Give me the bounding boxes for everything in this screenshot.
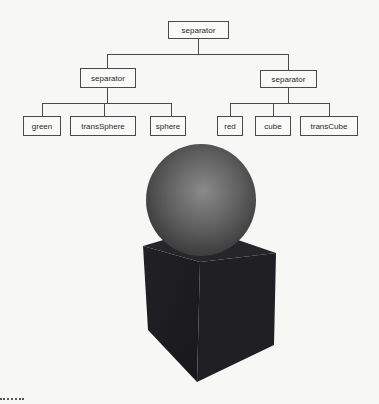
- node-root-separator: separator: [168, 21, 229, 39]
- cube-shape: [143, 238, 276, 382]
- connector: [329, 103, 330, 116]
- node-sphere: sphere: [150, 116, 186, 136]
- connector: [42, 103, 43, 116]
- connector: [230, 103, 231, 116]
- rendered-scene: [0, 140, 379, 404]
- connector: [288, 54, 289, 70]
- connector: [198, 39, 199, 54]
- cube-left-face: [143, 246, 200, 382]
- cube-right-face: [197, 253, 276, 382]
- node-left-separator: separator: [80, 68, 136, 88]
- connector: [230, 103, 330, 104]
- connector: [171, 103, 172, 116]
- node-transsphere: transSphere: [70, 116, 136, 136]
- sphere-shape: [146, 144, 256, 256]
- connector: [273, 103, 274, 116]
- node-cube: cube: [255, 116, 291, 136]
- connector: [107, 88, 108, 103]
- connector: [104, 103, 105, 116]
- dotted-line: [0, 398, 24, 400]
- connector: [42, 103, 172, 104]
- node-transcube: transCube: [300, 116, 358, 136]
- connector: [107, 54, 108, 68]
- node-green: green: [23, 116, 61, 136]
- connector: [107, 54, 289, 55]
- connector: [288, 88, 289, 103]
- node-right-separator: separator: [260, 70, 317, 88]
- node-red: red: [217, 116, 243, 136]
